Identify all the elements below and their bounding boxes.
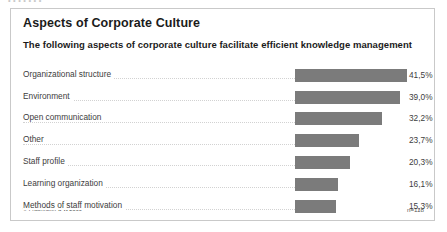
chart-row: Methods of staff motivation15,3% (23, 192, 423, 214)
chart-row: Learning organization16,1% (23, 170, 423, 192)
value-label: 41,5% (409, 70, 433, 80)
category-label: Staff profile (23, 156, 68, 166)
bar (295, 112, 382, 125)
value-label: 39,0% (409, 92, 433, 102)
value-label: 20,3% (409, 157, 433, 167)
top-edge-bleed-label: • • • • • • • (0, 0, 447, 5)
page-title: Aspects of Corporate Culture (23, 16, 200, 30)
bar (295, 69, 407, 82)
value-label: 23,7% (409, 135, 433, 145)
chart-row: Environment39,0% (23, 83, 423, 105)
leader-line (23, 143, 295, 145)
value-label: 15,3% (409, 201, 433, 211)
horizontal-bar-chart: Organizational structure41,5%Environment… (23, 61, 423, 213)
page-subtitle: The following aspects of corporate cultu… (23, 39, 412, 50)
bar (295, 178, 338, 191)
category-label: Other (23, 134, 47, 144)
category-label: Environment (23, 91, 73, 101)
chart-row: Other23,7% (23, 126, 423, 148)
category-label: Organizational structure (23, 69, 114, 79)
category-label: Methods of staff motivation (23, 200, 125, 210)
category-label: Learning organization (23, 178, 106, 188)
category-label: Open communication (23, 112, 104, 122)
chart-row: Staff profile20,3% (23, 148, 423, 170)
bar (295, 200, 336, 213)
bar (295, 156, 350, 169)
chart-row: Open communication32,2% (23, 105, 423, 127)
bar (295, 134, 359, 147)
top-edge-bleed-text: • • • • • • • (0, 0, 447, 7)
bar (295, 91, 400, 104)
chart-row: Organizational structure41,5% (23, 61, 423, 83)
chart-panel: Aspects of Corporate Culture The followi… (10, 8, 435, 221)
value-label: 16,1% (409, 179, 433, 189)
value-label: 32,2% (409, 113, 433, 123)
